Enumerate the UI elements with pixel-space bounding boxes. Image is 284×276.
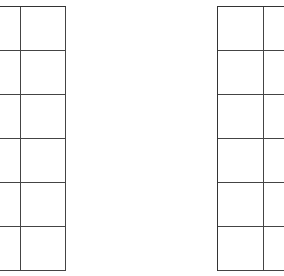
grid-cell: [218, 7, 264, 51]
grid-cell: [264, 183, 284, 227]
right-grid: [217, 6, 284, 271]
grid-cell: [218, 139, 264, 183]
grid-cell: [264, 139, 284, 183]
grid-cell: [0, 51, 21, 95]
grid-cell: [264, 227, 284, 271]
grid-cell: [21, 7, 66, 51]
grid-cell: [218, 227, 264, 271]
grid-cell: [0, 227, 21, 271]
grid-cell: [264, 7, 284, 51]
grid-cell: [21, 139, 66, 183]
grid-cell: [218, 183, 264, 227]
grid-cell: [218, 95, 264, 139]
grid-cell: [218, 51, 264, 95]
left-grid: [0, 6, 66, 271]
grid-cell: [0, 7, 21, 51]
grid-cell: [21, 95, 66, 139]
grid-cell: [21, 227, 66, 271]
grid-cell: [264, 95, 284, 139]
grid-cell: [0, 95, 21, 139]
grid-cell: [264, 51, 284, 95]
grid-cell: [0, 139, 21, 183]
grid-cell: [21, 183, 66, 227]
grid-cell: [21, 51, 66, 95]
grid-cell: [0, 183, 21, 227]
